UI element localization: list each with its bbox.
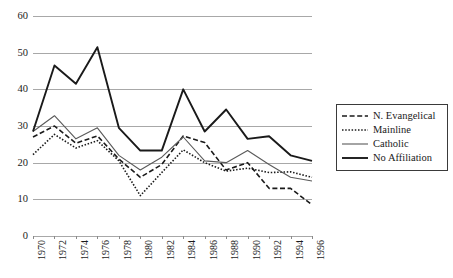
x-tick-label-1982: 1982: [166, 240, 176, 260]
dashed-line-icon: [342, 110, 368, 122]
x-tick-label-1972: 1972: [58, 240, 68, 260]
thick-solid-line-icon: [342, 152, 368, 164]
legend-item-n-evangelical[interactable]: N. Evangelical: [342, 109, 442, 123]
x-tick-label-1992: 1992: [273, 240, 283, 260]
thin-solid-line-icon: [342, 138, 368, 150]
x-tick-mark-1978: [119, 236, 120, 239]
legend-label: Mainline: [373, 124, 411, 136]
x-tick-mark-1974: [76, 236, 77, 239]
x-tick-mark-1972: [54, 236, 55, 239]
x-tick-label-1990: 1990: [252, 240, 262, 260]
x-tick-mark-1990: [248, 236, 249, 239]
x-tick-mark-1988: [226, 236, 227, 239]
plot-area: [33, 16, 312, 236]
y-tick-label-20: 20: [18, 158, 29, 169]
line-chart-figure: 0102030405060 19701972197419761978198019…: [0, 0, 453, 278]
y-tick-label-0: 0: [23, 231, 28, 242]
series-line-no-affiliation: [33, 47, 312, 161]
x-tick-mark-1992: [269, 236, 270, 239]
legend-item-mainline[interactable]: Mainline: [342, 123, 442, 137]
y-axis-labels: 0102030405060: [0, 0, 28, 278]
series-line-catholic: [33, 116, 312, 181]
y-tick-label-50: 50: [18, 48, 29, 59]
x-tick-mark-1984: [183, 236, 184, 239]
y-tick-label-40: 40: [18, 84, 29, 95]
series-lines: [33, 16, 312, 236]
x-axis-labels: 1970197219741976197819801982198419861988…: [33, 240, 312, 278]
x-tick-mark-1996: [312, 236, 313, 239]
dotted-line-icon: [342, 124, 368, 136]
x-tick-label-1970: 1970: [37, 240, 47, 260]
legend-item-catholic[interactable]: Catholic: [342, 137, 442, 151]
legend-label: No Affiliation: [373, 152, 432, 164]
y-tick-label-30: 30: [18, 121, 29, 132]
x-tick-mark-1970: [33, 236, 34, 239]
legend-item-no-affiliation[interactable]: No Affiliation: [342, 151, 442, 165]
x-tick-label-1996: 1996: [316, 240, 326, 260]
x-tick-mark-1982: [162, 236, 163, 239]
legend-label: N. Evangelical: [373, 110, 435, 122]
x-tick-mark-1976: [97, 236, 98, 239]
x-tick-label-1988: 1988: [230, 240, 240, 260]
x-tick-label-1994: 1994: [295, 240, 305, 260]
x-tick-mark-1986: [205, 236, 206, 239]
x-tick-mark-1980: [140, 236, 141, 239]
legend-label: Catholic: [373, 138, 409, 150]
y-tick-label-60: 60: [18, 11, 29, 22]
x-tick-label-1980: 1980: [144, 240, 154, 260]
x-tick-mark-1994: [291, 236, 292, 239]
x-tick-label-1984: 1984: [187, 240, 197, 260]
x-tick-label-1978: 1978: [123, 240, 133, 260]
x-tick-label-1986: 1986: [209, 240, 219, 260]
chart-legend: N. EvangelicalMainlineCatholicNo Affilia…: [336, 104, 448, 171]
x-tick-label-1974: 1974: [80, 240, 90, 260]
y-tick-label-10: 10: [18, 194, 29, 205]
x-tick-label-1976: 1976: [101, 240, 111, 260]
